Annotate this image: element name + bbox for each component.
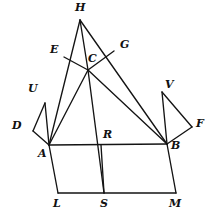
vertex-label-l: L — [53, 198, 61, 209]
segment-C-A — [49, 70, 88, 145]
vertex-label-g: G — [120, 39, 129, 50]
geometry-figure: HECGUVDFARBLSM — [0, 0, 218, 222]
segment-C-B — [88, 70, 167, 144]
vertex-label-u: U — [28, 83, 38, 94]
segment-H-C — [80, 20, 88, 70]
segment-D-A — [33, 131, 49, 145]
segment-C-S — [88, 70, 104, 193]
vertex-label-c: C — [88, 53, 97, 64]
vertex-label-d: D — [12, 120, 22, 131]
vertex-label-r: R — [103, 129, 112, 140]
vertex-label-e: E — [50, 44, 58, 55]
segment-U-A — [45, 103, 49, 145]
vertex-label-f: F — [196, 118, 204, 129]
segment-V-B — [162, 92, 167, 144]
vertex-label-s: S — [100, 198, 108, 209]
segment-A-L — [49, 145, 58, 193]
segment-U-D — [33, 103, 45, 131]
vertex-label-m: M — [169, 198, 181, 209]
vertex-label-h: H — [75, 2, 85, 13]
segment-A-B — [49, 144, 167, 145]
segment-V-F — [162, 92, 192, 127]
vertex-label-v: V — [165, 79, 174, 90]
vertex-label-b: B — [171, 140, 180, 151]
segment-H-A — [49, 20, 80, 145]
geometry-canvas — [0, 0, 218, 222]
vertex-label-a: A — [38, 148, 47, 159]
